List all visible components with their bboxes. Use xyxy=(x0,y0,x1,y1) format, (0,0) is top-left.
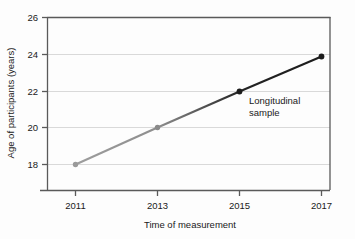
y-tick-label-22: 22 xyxy=(27,86,38,97)
x-axis-title: Time of measurement xyxy=(144,219,236,230)
x-tick-label-2015: 2015 xyxy=(229,200,250,211)
y-tick-label-24: 24 xyxy=(27,49,38,60)
y-axis-title: Age of participants (years) xyxy=(5,48,16,159)
x-tick-label-2017: 2017 xyxy=(311,200,332,211)
annotation-line-2: sample xyxy=(249,107,280,118)
y-tick-label-18: 18 xyxy=(27,159,38,170)
line-chart: 18 20 22 24 26 2011 2013 2015 2017 Time … xyxy=(0,0,355,239)
data-point-2015 xyxy=(237,89,243,95)
y-tick-label-20: 20 xyxy=(27,122,38,133)
data-point-2011 xyxy=(73,162,78,167)
x-tick-label-2011: 2011 xyxy=(65,200,85,211)
annotation-line-1: Longitudinal xyxy=(249,95,300,106)
data-point-2017 xyxy=(319,54,325,60)
x-tick-label-2013: 2013 xyxy=(147,200,168,211)
chart-container: 18 20 22 24 26 2011 2013 2015 2017 Time … xyxy=(0,0,355,239)
y-axis-ticks xyxy=(42,18,47,165)
data-point-2013 xyxy=(155,125,160,130)
y-tick-label-26: 26 xyxy=(27,12,38,23)
